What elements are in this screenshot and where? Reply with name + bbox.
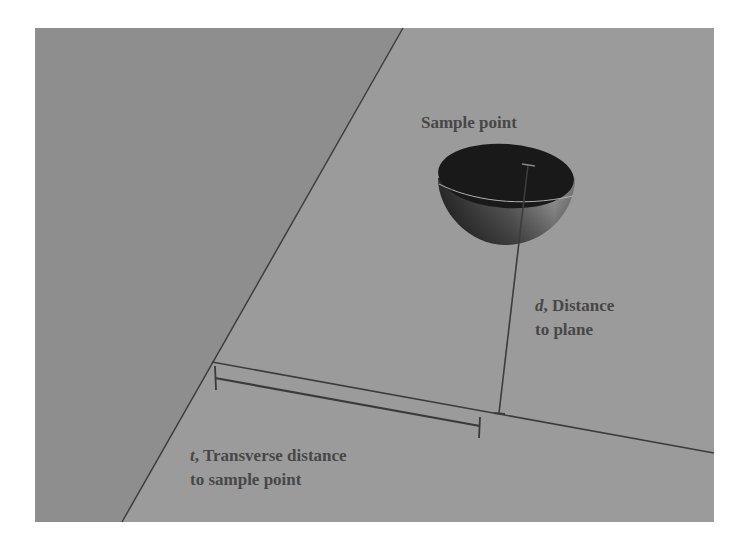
distance-label-line2: to plane	[535, 318, 614, 342]
distance-variable: d	[535, 296, 544, 315]
sample-point-label: Sample point	[421, 111, 517, 135]
transverse-distance-label: t, Transverse distance to sample point	[190, 444, 347, 492]
diagram-figure: Sample point d, Distance to plane t, Tra…	[0, 0, 751, 551]
sample-point-text: Sample point	[421, 113, 517, 132]
distance-label: d, Distance to plane	[535, 294, 614, 342]
distance-label-line1: , Distance	[544, 296, 615, 315]
transverse-label-line1: , Transverse distance	[195, 446, 347, 465]
diagram-canvas	[0, 0, 751, 551]
transverse-label-line2: to sample point	[190, 468, 347, 492]
